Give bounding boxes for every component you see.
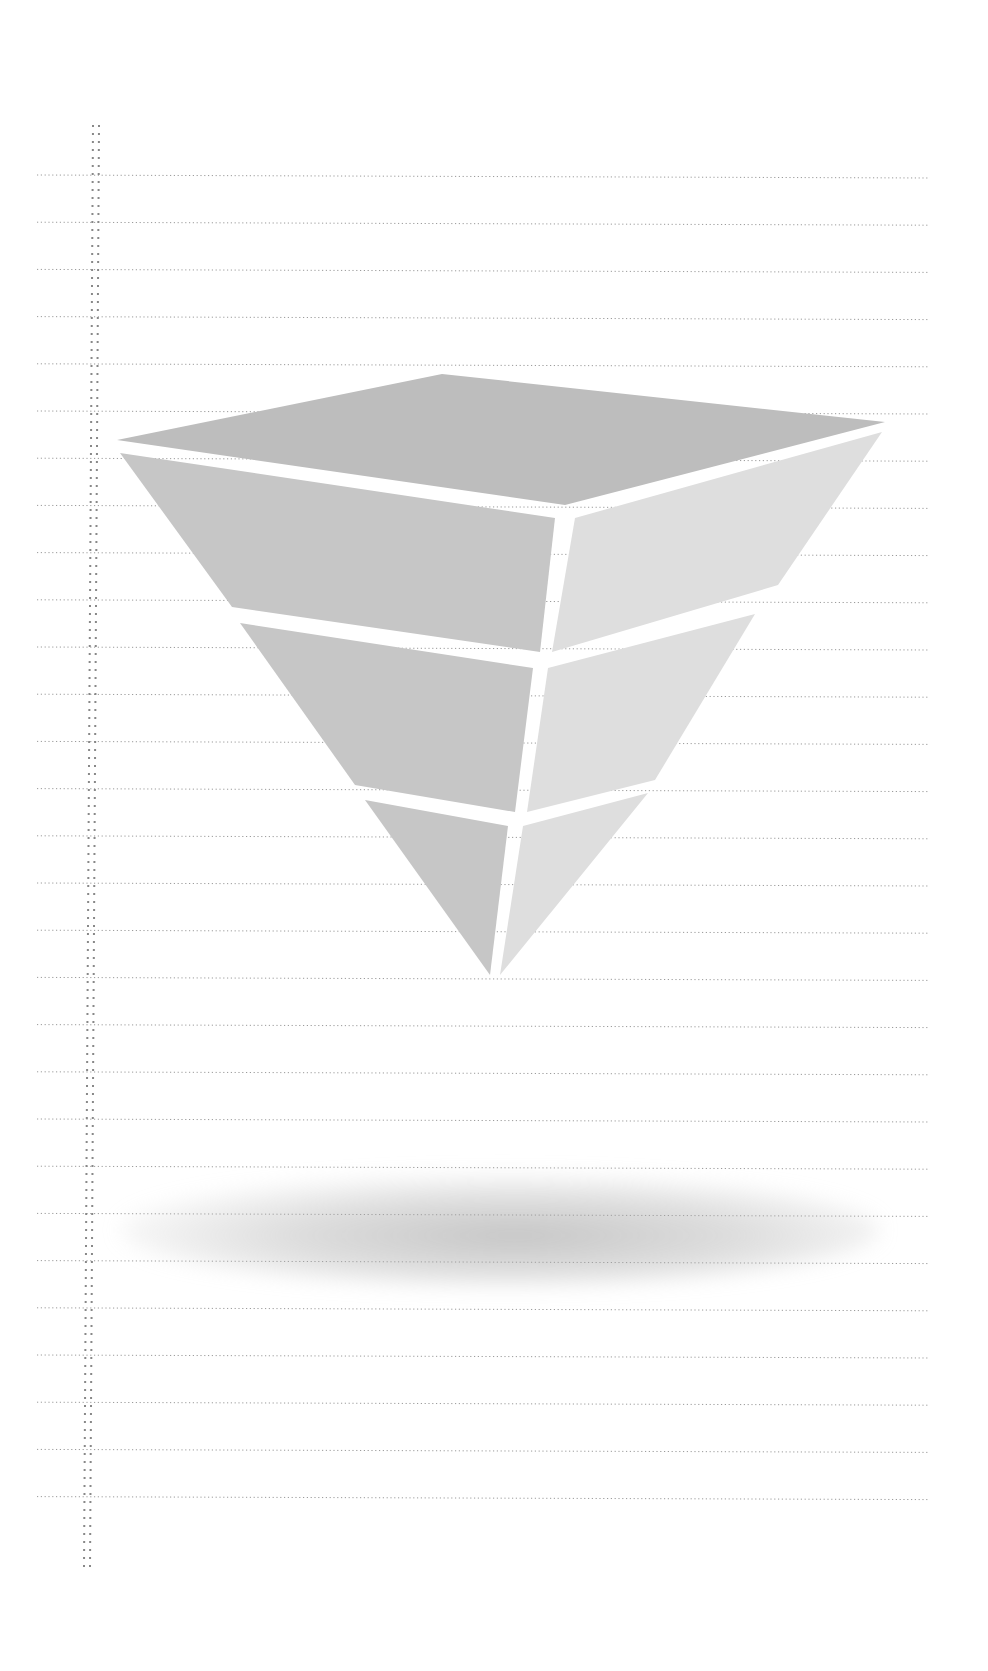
pyramid-left-face: [365, 800, 508, 975]
pyramid-right-face: [500, 793, 648, 975]
pyramid-bands: [120, 432, 882, 975]
pyramid-left-face: [240, 623, 533, 812]
notebook-page: [0, 0, 988, 1671]
pyramid-band-3: [365, 793, 648, 975]
pyramid-diagram: [0, 0, 988, 1671]
